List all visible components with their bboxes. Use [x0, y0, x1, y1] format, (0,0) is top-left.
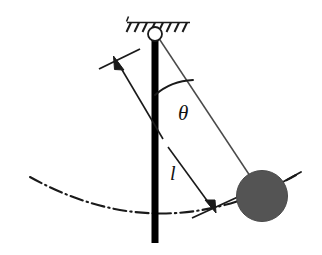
support-end-tick	[127, 17, 129, 22]
pivot-joint	[148, 27, 162, 41]
length-dimension-arrow	[99, 49, 240, 218]
angle-label: θ	[178, 101, 188, 125]
pendulum-bob	[237, 171, 288, 222]
vertical-reference-rod	[152, 33, 159, 243]
pendulum-figure: θ l θ l simple-pendulum-diagram	[0, 0, 322, 255]
arc-tangent-stub	[281, 172, 301, 183]
pendulum-diagram-svg: θ l	[0, 0, 322, 255]
length-label: l	[170, 162, 176, 184]
